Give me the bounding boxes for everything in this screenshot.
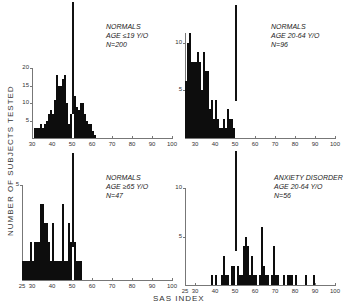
y-tick-label: 5: [7, 181, 19, 187]
x-tick: [112, 278, 113, 281]
x-tick: [335, 136, 336, 139]
x-tick-label: 90: [312, 288, 319, 294]
x-tick: [152, 136, 153, 139]
x-tick: [195, 283, 196, 286]
x-tick-label: 25: [182, 288, 189, 294]
x-tick: [185, 283, 186, 286]
histogram-bar: [215, 275, 217, 285]
x-tick-label: 80: [129, 283, 136, 289]
x-tick-label: 60: [252, 288, 259, 294]
histogram-bar: [305, 275, 307, 285]
x-tick: [315, 136, 316, 139]
x-tick-label: 60: [252, 141, 259, 147]
x-tick-label: 80: [292, 288, 299, 294]
y-tick-label: 10: [170, 39, 182, 45]
x-tick-label: 70: [109, 283, 116, 289]
reference-gap: [235, 251, 237, 285]
x-tick-label: 30: [192, 288, 199, 294]
x-tick-label: 30: [29, 283, 36, 289]
x-tick-label: 100: [330, 288, 340, 294]
panel-annotation: ANXIETY DISORDER AGE 20-64 Y/O N=56: [274, 173, 343, 200]
x-tick-label: 90: [149, 283, 156, 289]
x-tick-label: 30: [192, 141, 199, 147]
x-axis: [32, 138, 172, 139]
y-tick: [30, 121, 33, 122]
x-tick-label: 40: [212, 141, 219, 147]
reference-line-50: [72, 153, 74, 247]
y-tick: [30, 86, 33, 87]
x-axis: [22, 280, 172, 281]
histogram-anxiety-disorder: ANXIETY DISORDER AGE 20-64 Y/O N=56 2530…: [171, 150, 342, 307]
y-tick: [183, 188, 186, 189]
x-tick-label: 80: [129, 141, 136, 147]
x-tick: [32, 136, 33, 139]
y-tick: [30, 103, 33, 104]
x-tick: [152, 278, 153, 281]
histogram-bar: [211, 275, 213, 285]
x-tick: [132, 278, 133, 281]
y-tick-label: 5: [170, 86, 182, 92]
histogram-bar: [295, 275, 297, 285]
y-tick-label: 15: [17, 82, 29, 88]
x-tick-label: 70: [272, 141, 279, 147]
x-tick-label: 25: [19, 283, 26, 289]
x-tick: [92, 278, 93, 281]
x-tick-label: 50: [232, 288, 239, 294]
x-tick: [275, 136, 276, 139]
reference-line-50: [72, 2, 74, 114]
reference-gap: [72, 114, 74, 139]
histogram-bar: [80, 261, 82, 280]
x-tick-label: 50: [232, 141, 239, 147]
x-tick-label: 40: [49, 283, 56, 289]
histogram-bar: [291, 275, 293, 285]
histogram-bar: [94, 135, 96, 139]
x-tick-label: 90: [312, 141, 319, 147]
x-tick-label: 60: [89, 283, 96, 289]
x-tick-label: 50: [69, 283, 76, 289]
histogram-bar: [227, 275, 229, 285]
x-tick-label: 50: [69, 141, 76, 147]
x-tick: [112, 136, 113, 139]
histogram-bar: [255, 275, 257, 285]
histogram-normals-20-64: NORMALS AGE 20-64 Y/O N=96 3040506070809…: [171, 0, 342, 150]
y-tick-label: 5: [170, 233, 182, 239]
y-tick: [20, 185, 23, 186]
histogram-bar: [313, 275, 315, 285]
x-tick-label: 70: [109, 141, 116, 147]
panel-annotation: NORMALS AGE 20-64 Y/O N=96: [271, 22, 320, 49]
histogram-normals-65: NORMALS AGE ≥65 Y/O N=47 253040506070809…: [0, 150, 171, 307]
x-tick: [295, 136, 296, 139]
histogram-bar: [277, 275, 279, 285]
x-tick: [255, 136, 256, 139]
y-tick: [183, 43, 186, 44]
x-tick-label: 90: [149, 141, 156, 147]
x-tick-label: 60: [89, 141, 96, 147]
y-tick: [183, 237, 186, 238]
x-tick: [335, 283, 336, 286]
reference-gap: [72, 247, 74, 280]
x-tick: [132, 136, 133, 139]
histogram-bar: [267, 275, 269, 285]
x-tick-label: 70: [272, 288, 279, 294]
x-tick-label: 30: [29, 141, 36, 147]
panel-annotation: NORMALS AGE ≥65 Y/O N=47: [106, 173, 148, 200]
x-tick-label: 100: [330, 141, 340, 147]
y-tick-label: 10: [17, 99, 29, 105]
y-tick-label: 20: [17, 64, 29, 70]
histogram-bar: [283, 275, 285, 285]
y-tick-label: 10: [170, 184, 182, 190]
histogram-normals-19: NORMALS AGE ≤19 Y/O N=200 30405060708090…: [0, 0, 171, 150]
reference-line-50: [235, 151, 237, 251]
y-tick: [30, 68, 33, 69]
x-axis: [185, 138, 335, 139]
y-tick-label: 5: [17, 117, 29, 123]
x-tick-label: 80: [292, 141, 299, 147]
x-tick-label: 40: [212, 288, 219, 294]
reference-gap: [235, 101, 237, 138]
panel-annotation: NORMALS AGE ≤19 Y/O N=200: [106, 22, 148, 49]
x-axis: [185, 285, 335, 286]
x-tick-label: 40: [49, 141, 56, 147]
reference-line-50: [235, 5, 237, 101]
